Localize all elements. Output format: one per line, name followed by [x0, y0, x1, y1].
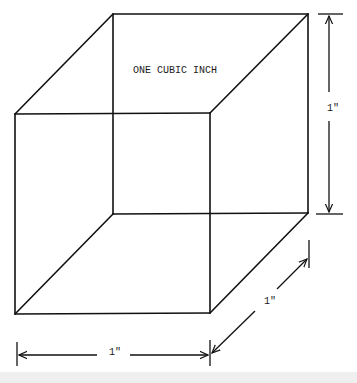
depth-label: 1" — [264, 296, 276, 307]
cube-depth-edges — [15, 14, 308, 314]
height-dimension: 1" — [316, 14, 343, 214]
cube-diagram: ONE CUBIC INCH 1" 1" 1" — [0, 0, 357, 383]
cube-title-label: ONE CUBIC INCH — [133, 65, 217, 76]
bottom-strip — [0, 372, 357, 383]
height-label: 1" — [327, 103, 339, 114]
width-label: 1" — [109, 347, 121, 358]
width-dimension: 1" — [17, 340, 210, 366]
